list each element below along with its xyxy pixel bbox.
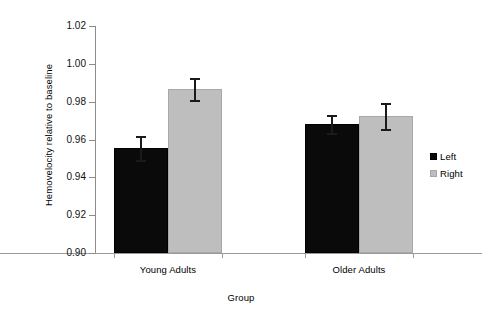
y-axis-tick-label-wrapper: 1.02 (0, 21, 86, 31)
y-axis-tick-label-wrapper: 0.92 (0, 210, 86, 220)
y-axis-tick-label: 0.92 (0, 210, 86, 220)
legend-label-left: Left (440, 152, 456, 162)
y-axis-tick (89, 102, 95, 103)
error-bar-cap (136, 136, 146, 138)
y-axis-tick-label: 0.98 (0, 97, 86, 107)
y-axis-tick-label-wrapper: 0.98 (0, 97, 86, 107)
x-axis-tick (413, 253, 414, 258)
y-axis-tick (89, 253, 95, 254)
y-axis-line (95, 26, 96, 254)
error-bar-cap (136, 160, 146, 162)
legend-swatch-left-icon (430, 153, 437, 160)
x-axis-category-label: Young Adults (108, 264, 228, 275)
x-axis-tick (114, 253, 115, 258)
error-bar-cap (381, 103, 391, 105)
legend: Left Right (430, 148, 482, 182)
y-axis-tick-label: 1.00 (0, 59, 86, 69)
y-axis-tick-label: 1.02 (0, 21, 86, 31)
y-axis-tick-label-wrapper: 1.00 (0, 59, 86, 69)
error-bar-stem (331, 115, 333, 133)
y-axis-tick (89, 26, 95, 27)
x-axis-title: Group (0, 292, 482, 303)
error-bar-cap (327, 133, 337, 135)
x-axis-tick (305, 253, 306, 258)
y-axis-tick-label: 0.90 (0, 248, 86, 258)
error-bar-stem (385, 103, 387, 129)
y-axis-tick (89, 64, 95, 65)
legend-item-left[interactable]: Left (430, 148, 482, 165)
bar-young-adults-right (168, 89, 222, 253)
error-bar-stem (140, 136, 142, 160)
x-axis-category-label: Older Adults (299, 264, 419, 275)
error-bar-cap (381, 129, 391, 131)
error-bar-cap (190, 78, 200, 80)
legend-item-right[interactable]: Right (430, 165, 482, 182)
bar-older-adults-left (305, 124, 359, 253)
legend-swatch-right-icon (430, 170, 437, 177)
y-axis-tick-label: 0.96 (0, 135, 86, 145)
y-axis-tick-label-wrapper: 0.94 (0, 172, 86, 182)
legend-label-right: Right (440, 169, 463, 179)
error-bar-stem (194, 78, 196, 100)
error-bar-cap (190, 100, 200, 102)
y-axis-tick-label-wrapper: 0.96 (0, 135, 86, 145)
y-axis-tick (89, 215, 95, 216)
x-axis-tick (222, 253, 223, 258)
y-axis-tick-label-wrapper: 0.90 (0, 248, 86, 258)
y-axis-tick (89, 140, 95, 141)
bar-chart-figure: Hemovelocity relative to baseline 1.021.… (0, 0, 482, 316)
y-axis-tick (89, 177, 95, 178)
error-bar-cap (327, 115, 337, 117)
bar-young-adults-left (114, 148, 168, 253)
bar-older-adults-right (359, 116, 413, 253)
y-axis-tick-label: 0.94 (0, 172, 86, 182)
